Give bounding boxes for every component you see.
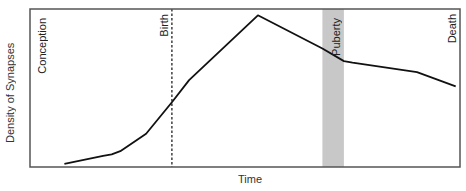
x-axis-label: Time [238,173,262,185]
plot-frame [30,9,460,167]
y-axis-label: Density of Synapses [4,38,18,148]
conception-label: Conception [36,18,48,74]
data-line [64,15,455,164]
death-label: Death [446,14,458,43]
chart-canvas [0,0,466,191]
birth-label: Birth [158,14,170,37]
puberty-label: Puberty [330,18,342,56]
